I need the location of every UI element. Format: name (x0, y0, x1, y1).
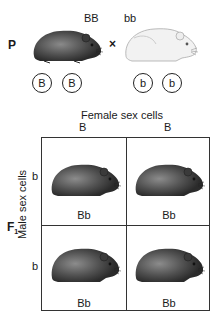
white-hamster-parent-image (122, 24, 200, 64)
punnett-cell: Bb (127, 226, 211, 313)
punnett-cell: Bb (127, 138, 211, 225)
parent-generation-label: P (8, 39, 16, 51)
punnett-cell: Bb (42, 138, 126, 225)
cell-genotype: Bb (127, 297, 211, 309)
cell-genotype: Bb (42, 209, 126, 221)
column-allele: B (164, 121, 171, 133)
allele-circle: B (62, 73, 82, 93)
column-header: Female sex cells (81, 109, 163, 121)
column-allele: B (79, 121, 86, 133)
dark-hamster-offspring-image (48, 244, 122, 286)
dark-hamster-offspring-image (132, 244, 206, 286)
row-allele: b (32, 260, 38, 272)
parent-left-genotype: BB (84, 12, 99, 24)
parent-right-genotype: bb (124, 12, 136, 24)
dark-hamster-offspring-image (48, 160, 122, 200)
punnett-square: Bb Bb Bb Bb (41, 137, 210, 311)
row-allele: b (32, 170, 38, 182)
punnett-cell: Bb (42, 226, 126, 313)
dark-hamster-parent-image (30, 26, 104, 64)
cross-symbol: × (109, 38, 116, 50)
f1-generation-label: F1 (7, 220, 18, 235)
allele-circle: b (133, 73, 153, 93)
allele-circle: B (32, 73, 52, 93)
cell-genotype: Bb (42, 297, 126, 309)
cell-genotype: Bb (127, 209, 211, 221)
dark-hamster-offspring-image (132, 160, 206, 200)
allele-circle: b (162, 73, 182, 93)
